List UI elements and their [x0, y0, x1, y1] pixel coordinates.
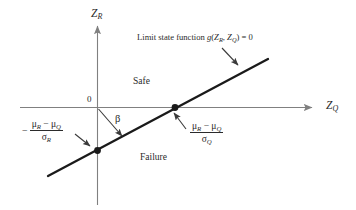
limit-state-text-prefix: Limit state function [137, 32, 207, 42]
y-axis-label-subscript: R [97, 12, 102, 21]
x-axis-label: ZQ [326, 100, 338, 113]
limit-state-diagram: ZR ZQ 0 Safe Failure β Limit state funct… [0, 0, 356, 210]
x-axis-label-subscript: Q [332, 104, 338, 113]
left-intercept-denominator: σR [40, 132, 53, 143]
right-intercept-numerator: μR − μQ [190, 121, 223, 132]
failure-region-label: Failure [140, 153, 167, 163]
left-numerator-minus: − [41, 119, 51, 129]
left-intercept-point [94, 147, 101, 154]
right-intercept-fraction: μR − μQ σQ [190, 121, 223, 145]
limit-state-leader-arrow [222, 48, 238, 65]
origin-label: 0 [87, 95, 92, 104]
right-intercept-denominator: σQ [200, 134, 214, 145]
right-intercept-point [172, 104, 179, 111]
left-intercept-label: − μR − μQ σR [22, 119, 63, 143]
right-numerator-minus: − [201, 121, 211, 131]
left-intercept-leader-arrow [75, 134, 90, 146]
right-intercept-label: μR − μQ σQ [190, 121, 223, 145]
right-denominator-sigma-sub: Q [207, 138, 212, 145]
right-numerator-mu2-sub: Q [216, 125, 221, 132]
safe-region-label: Safe [133, 77, 150, 87]
limit-state-equals: = 0 [239, 32, 252, 42]
left-intercept-sign: − [22, 125, 28, 137]
left-denominator-sigma-sub: R [47, 136, 51, 143]
limit-state-function-label: Limit state function g(ZR, ZQ) = 0 [137, 33, 253, 43]
right-intercept-leader-arrow [174, 113, 186, 129]
left-intercept-fraction: μR − μQ σR [30, 119, 63, 143]
y-axis-label: ZR [91, 8, 102, 21]
beta-label: β [115, 114, 120, 125]
left-intercept-numerator: μR − μQ [30, 119, 63, 130]
left-numerator-mu2-sub: Q [56, 123, 61, 130]
